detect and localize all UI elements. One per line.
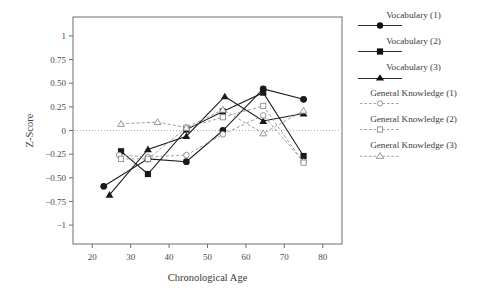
legend-item[interactable]: Vocabulary (1) <box>350 10 477 30</box>
legend-item[interactable]: General Knowledge (2) <box>350 114 477 134</box>
series-line <box>104 89 304 186</box>
series-general-knowledge-2 <box>118 103 306 165</box>
x-tick-label: 40 <box>165 252 175 262</box>
data-point-open-triangle <box>154 119 161 125</box>
x-tick-label: 20 <box>88 252 98 262</box>
y-tick-label: 0 <box>62 126 67 136</box>
data-point-open-square <box>301 160 306 165</box>
y-tick-label: 0.50 <box>50 78 66 88</box>
series-vocabulary-3 <box>106 93 308 198</box>
legend-item[interactable]: General Knowledge (1) <box>350 88 477 108</box>
x-tick-label: 30 <box>126 252 136 262</box>
plot-svg: 10.750.500.250−0.25−0.50−0.75−1203040506… <box>0 0 350 299</box>
legend-key-filled-square <box>350 47 477 56</box>
data-point-filled-circle <box>100 183 107 190</box>
data-point-filled-square <box>260 90 266 96</box>
legend-key-open-square <box>350 125 477 134</box>
legend-key-filled-triangle <box>350 73 477 82</box>
data-point-filled-circle <box>300 96 307 103</box>
x-tick-label: 80 <box>318 252 328 262</box>
data-point-filled-square <box>300 153 306 159</box>
legend-label: Vocabulary (2) <box>350 36 477 47</box>
data-point-filled-circle <box>183 158 190 165</box>
y-tick-label: 1 <box>62 31 67 41</box>
legend-label: General Knowledge (2) <box>350 114 477 125</box>
data-point-open-square <box>261 103 266 108</box>
data-point-open-square <box>118 156 123 161</box>
data-point-open-circle <box>260 113 266 119</box>
y-axis-label: Z-Score <box>24 113 35 147</box>
series-general-knowledge-3 <box>118 106 307 135</box>
legend-label: General Knowledge (1) <box>350 88 477 99</box>
legend-item[interactable]: Vocabulary (2) <box>350 36 477 56</box>
chart-legend: Vocabulary (1) Vocabulary (2) Vocabulary… <box>350 0 477 299</box>
legend-label: Vocabulary (3) <box>350 62 477 73</box>
x-tick-label: 50 <box>203 252 213 262</box>
y-tick-label: 0.75 <box>50 55 66 65</box>
data-point-filled-triangle <box>221 93 229 100</box>
y-tick-label: −0.25 <box>45 149 66 159</box>
data-point-filled-square <box>145 171 151 177</box>
x-axis-label: Chronological Age <box>168 272 248 283</box>
series-vocabulary-1 <box>100 85 307 189</box>
x-tick-label: 60 <box>241 252 251 262</box>
legend-key-filled-circle <box>350 21 477 30</box>
legend-key-open-circle <box>350 99 477 108</box>
y-tick-label: −0.50 <box>45 173 66 183</box>
legend-key-open-triangle <box>350 151 477 160</box>
chart-figure: 10.750.500.250−0.25−0.50−0.75−1203040506… <box>0 0 477 299</box>
data-point-open-square <box>220 115 225 120</box>
legend-item[interactable]: General Knowledge (3) <box>350 140 477 160</box>
y-tick-label: −0.75 <box>45 197 66 207</box>
plot-area: 10.750.500.250−0.25−0.50−0.75−1203040506… <box>0 0 350 299</box>
legend-label: General Knowledge (3) <box>350 140 477 151</box>
series-general-knowledge-1 <box>116 113 306 165</box>
data-point-open-circle <box>220 131 226 137</box>
data-point-open-circle <box>184 152 190 158</box>
x-tick-label: 70 <box>280 252 290 262</box>
legend-label: Vocabulary (1) <box>350 10 477 21</box>
data-point-open-triangle <box>300 107 307 113</box>
y-tick-label: 0.25 <box>50 102 66 112</box>
y-tick-label: −1 <box>56 220 66 230</box>
data-point-open-square <box>145 156 150 161</box>
legend-item[interactable]: Vocabulary (3) <box>350 62 477 82</box>
